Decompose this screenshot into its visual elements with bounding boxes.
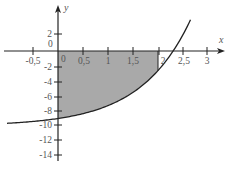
- x-tick-label: 3: [205, 56, 210, 66]
- y-tick-label: -14: [39, 150, 52, 160]
- y-tick-label: -8: [44, 106, 52, 116]
- x-tick-label: -0,5: [25, 56, 40, 66]
- x-tick-label: 1: [106, 56, 111, 66]
- x-tick-label: 2,5: [178, 56, 190, 66]
- y-tick-label: -4: [44, 77, 52, 87]
- function-plot: y x 0 0 -0,5 0,5 1 1,5 2 2,5 3 2 -2 -4 -…: [0, 0, 226, 179]
- y-tick-label: -6: [44, 92, 52, 102]
- x-tick-label: 1,5: [127, 56, 139, 66]
- x-tick-label: 2: [161, 56, 166, 66]
- y-tick-label: -2: [44, 62, 52, 72]
- x-axis-label: x: [218, 34, 224, 45]
- x-tick-label: 0,5: [78, 56, 90, 66]
- y-tick-label: -12: [39, 135, 52, 145]
- origin-label-y: 0: [48, 39, 53, 49]
- origin-label-x: 0: [61, 54, 66, 64]
- y-axis-label: y: [63, 2, 69, 13]
- y-tick-label: -10: [39, 120, 52, 130]
- y-tick-label: 2: [47, 29, 52, 39]
